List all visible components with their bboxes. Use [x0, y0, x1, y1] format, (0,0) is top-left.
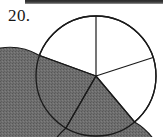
worksheet-page: 20. [0, 0, 163, 137]
pie-chart-svg [0, 0, 163, 137]
pie-chart-figure [0, 0, 163, 137]
